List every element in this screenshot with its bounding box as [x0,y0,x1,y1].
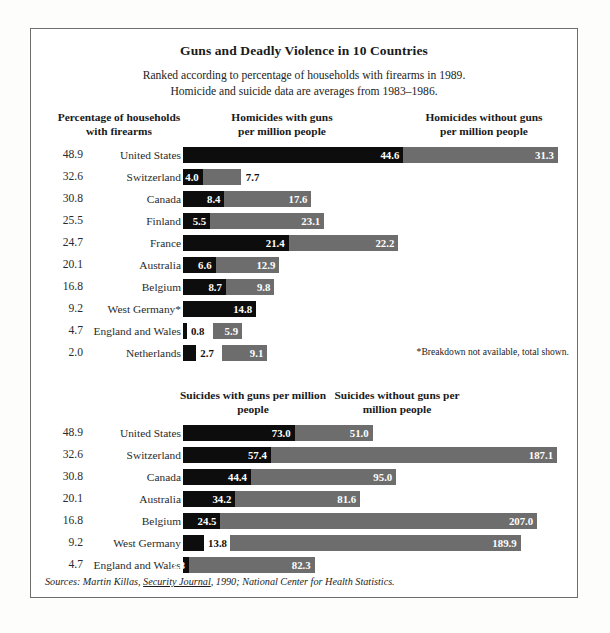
country-label: Australia [87,254,181,276]
column-header-homicides-with-guns: Homicides with guns per million people [199,110,365,138]
column-header-homicides-without-guns-line1: Homicides without guns [425,111,542,123]
column-header-homicides-with-guns-line1: Homicides with guns [231,111,332,123]
country-label: Finland [87,210,181,232]
bar-track: 44.631.3 [183,147,575,163]
country-label: Canada [87,466,181,488]
bar-segment-with-guns: 34.2 [183,491,235,507]
bar-track: 73.051.0 [183,425,575,441]
bar-track: 5.523.1 [183,213,575,229]
bar-track: 21.422.2 [183,235,575,251]
bar-segment-without-guns [203,169,241,185]
bar-value-with-guns: 13.8 [208,535,227,551]
country-label: United States [87,422,181,444]
bar-value-without-guns: 12.9 [256,257,275,273]
household-firearm-pct: 48.9 [35,422,83,444]
bar-segment-without-guns: 31.3 [403,147,558,163]
household-firearm-pct: 4.7 [35,554,83,576]
country-label: Switzerland [87,444,181,466]
bar-segment-with-guns: 73.0 [183,425,295,441]
bar-segment-with-guns: 6.6 [183,257,216,273]
bar-segment-with-guns: 8.4 [183,191,224,207]
country-label: United States [87,144,181,166]
bar-segment-without-guns: 5.9 [213,323,242,339]
column-header-homicides-with-guns-line2: per million people [199,124,365,138]
bar-value-with-guns: 5.5 [193,213,207,229]
bar-segment-with-guns: 8.7 [183,279,226,295]
bar-track: 13.8189.9 [183,535,575,551]
bar-value-without-guns: 7.7 [246,169,260,185]
household-firearm-pct: 4.7 [35,320,83,342]
sources-suffix: , 1990; National Center for Health Stati… [211,576,395,587]
bar-value-without-guns: 189.9 [492,535,516,551]
bar-segment-with-guns: 44.6 [183,147,403,163]
bar-value-without-guns: 31.3 [535,147,554,163]
bar-track: 34.281.6 [183,491,575,507]
household-firearm-pct: 20.1 [35,254,83,276]
subtitle: Ranked according to percentage of househ… [31,68,577,100]
household-firearm-pct: 32.6 [35,444,83,466]
bar-track: 0.85.9 [183,323,575,339]
column-header-household-pct-line1: Percentage of households [58,111,181,123]
footnote-breakdown: *Breakdown not available, total shown. [417,346,569,357]
table-row: 30.8Canada44.495.0 [31,466,577,488]
bar-value-without-guns: 207.0 [509,513,533,529]
bar-segment-without-guns: 22.2 [289,235,399,251]
household-firearm-pct: 30.8 [35,466,83,488]
bar-track: 57.4187.1 [183,447,575,463]
table-row: 32.6Switzerland57.4187.1 [31,444,577,466]
suicides-chart: 48.9United States73.051.032.6Switzerland… [31,422,577,576]
bar-value-without-guns: 17.6 [289,191,308,207]
bar-segment-with-guns [183,535,204,551]
bar-segment-without-guns: 23.1 [210,213,324,229]
bar-track: 14.8 [183,301,575,317]
household-firearm-pct: 24.7 [35,232,83,254]
bar-segment-with-guns: 4.0 [183,169,203,185]
bar-segment-without-guns: 189.9 [230,535,521,551]
country-label: Canada [87,188,181,210]
country-label: France [87,232,181,254]
sources-journal-title: Security Journal [143,576,211,587]
bar-value-with-guns: 73.0 [272,425,291,441]
table-row: 48.9United States73.051.0 [31,422,577,444]
bar-segment-without-guns: 187.1 [271,447,557,463]
household-firearm-pct: 9.2 [35,532,83,554]
page-background: Guns and Deadly Violence in 10 Countries… [0,0,610,633]
column-header-household-pct-line2: with firearms [35,124,203,138]
table-row: 16.8Belgium24.5207.0 [31,510,577,532]
household-firearm-pct: 2.0 [35,342,83,364]
household-firearm-pct: 16.8 [35,510,83,532]
country-label: Switzerland [87,166,181,188]
bar-segment-without-guns: 17.6 [224,191,311,207]
column-header-suicides-with-guns-line1: Suicides with guns [180,389,270,401]
bar-value-with-guns: 3.8 [171,557,185,573]
bar-value-with-guns: 8.4 [207,191,221,207]
bar-value-without-guns: 9.8 [257,279,271,295]
bar-segment-with-guns: 57.4 [183,447,271,463]
bar-value-with-guns: 57.4 [248,447,267,463]
bar-value-with-guns: 21.4 [266,235,285,251]
suicide-column-headers: Suicides with guns per million people Su… [31,388,577,422]
table-row: 9.2West Germany13.8189.9 [31,532,577,554]
table-row: 9.2West Germany*14.8 [31,298,577,320]
bar-segment-with-guns: 24.5 [183,513,220,529]
country-label: West Germany* [87,298,181,320]
bar-segment-without-guns: 9.1 [222,345,267,361]
homicide-column-headers: Percentage of households with firearms H… [31,110,577,144]
bar-value-without-guns: 23.1 [301,213,320,229]
bar-segment-with-guns: 21.4 [183,235,289,251]
country-label: Belgium [87,510,181,532]
bar-value-without-guns: 51.0 [350,425,369,441]
bar-value-without-guns: 95.0 [373,469,392,485]
subtitle-line-2: Homicide and suicide data are averages f… [170,85,437,98]
bar-value-with-guns: 24.5 [198,513,217,529]
table-row: 32.6Switzerland4.07.7 [31,166,577,188]
sources-prefix: Sources: Martin Killas, [45,576,143,587]
bar-segment-without-guns: 12.9 [216,257,280,273]
table-row: 25.5Finland5.523.1 [31,210,577,232]
bar-value-with-guns: 0.8 [191,323,205,339]
section-gap [31,364,577,388]
bar-value-without-guns: 82.3 [292,557,311,573]
country-label: Netherlands [87,342,181,364]
bar-value-with-guns: 14.8 [233,301,252,317]
table-row: 48.9United States44.631.3 [31,144,577,166]
